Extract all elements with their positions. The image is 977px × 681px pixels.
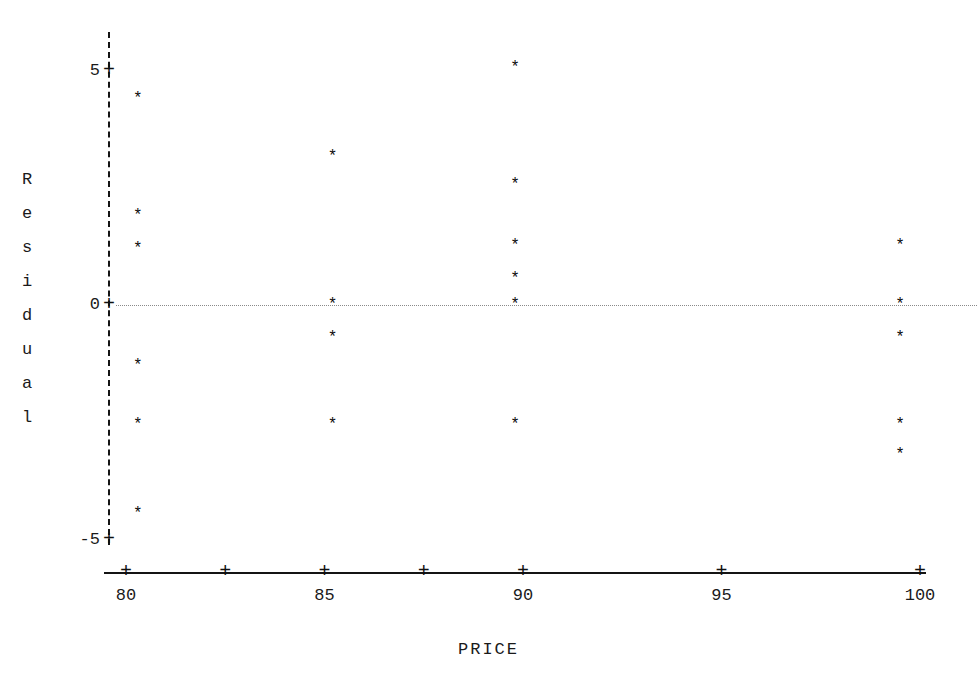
x-axis-tick-label: 95 — [692, 586, 752, 605]
y-axis-tick: + — [101, 63, 117, 79]
x-axis-tick: + — [118, 564, 134, 580]
x-axis-tick: + — [317, 564, 333, 580]
data-point: * — [131, 507, 145, 521]
data-point: * — [325, 418, 339, 432]
data-point: * — [508, 61, 522, 75]
data-point: * — [131, 359, 145, 373]
data-point: * — [893, 331, 907, 345]
data-point: * — [508, 178, 522, 192]
data-point: * — [131, 209, 145, 223]
residual-plot: Residual +5+0+-5 +80++85++90+95+100 ****… — [0, 0, 977, 681]
data-point: * — [131, 92, 145, 106]
data-point: * — [325, 331, 339, 345]
y-axis-title: Residual — [14, 163, 40, 435]
y-axis-tick-label: 0 — [56, 297, 100, 313]
data-point: * — [325, 298, 339, 312]
y-axis-tick-label: -5 — [56, 532, 100, 548]
data-point: * — [893, 418, 907, 432]
data-point: * — [508, 272, 522, 286]
y-axis-title-char: l — [14, 401, 40, 435]
y-axis-title-char: e — [14, 197, 40, 231]
data-point: * — [893, 448, 907, 462]
y-axis-title-char: d — [14, 299, 40, 333]
y-axis-title-char: a — [14, 367, 40, 401]
data-point: * — [131, 418, 145, 432]
y-axis-line — [108, 32, 110, 545]
x-axis-tick-label: 90 — [493, 586, 553, 605]
data-point: * — [893, 239, 907, 253]
data-point: * — [508, 298, 522, 312]
x-axis-tick: + — [515, 564, 531, 580]
data-point: * — [508, 239, 522, 253]
x-axis-tick: + — [416, 564, 432, 580]
data-point: * — [325, 150, 339, 164]
x-axis-tick-label: 100 — [890, 586, 950, 605]
y-axis-tick: + — [101, 532, 117, 548]
data-point: * — [508, 418, 522, 432]
y-axis-title-char: i — [14, 265, 40, 299]
data-point: * — [131, 242, 145, 256]
y-axis-tick: + — [101, 297, 117, 313]
x-axis-tick: + — [217, 564, 233, 580]
x-axis-title: PRICE — [0, 640, 977, 659]
y-axis-title-char: R — [14, 163, 40, 197]
y-axis-tick-label: 5 — [56, 63, 100, 79]
x-axis-tick: + — [912, 564, 928, 580]
x-axis-tick-label: 85 — [295, 586, 355, 605]
x-axis-tick-label: 80 — [96, 586, 156, 605]
y-axis-title-char: u — [14, 333, 40, 367]
x-axis-tick: + — [714, 564, 730, 580]
zero-reference-line — [116, 305, 977, 306]
data-point: * — [893, 298, 907, 312]
y-axis-title-char: s — [14, 231, 40, 265]
